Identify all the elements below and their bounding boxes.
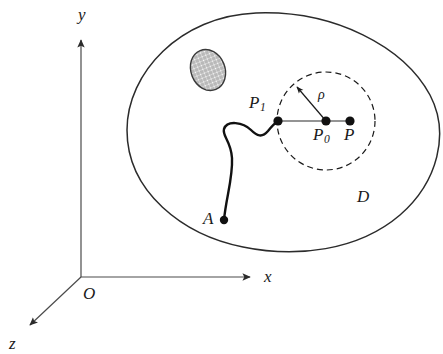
point-p0-label-sub: 0 bbox=[324, 133, 330, 146]
x-axis-label: x bbox=[264, 268, 272, 285]
radius-label: ρ bbox=[318, 88, 325, 102]
point-p1-label: P1 bbox=[249, 94, 266, 114]
domain-boundary bbox=[127, 13, 440, 252]
z-axis-label: z bbox=[9, 335, 16, 352]
domain-label: D bbox=[357, 188, 369, 205]
point-p1-dot bbox=[273, 116, 282, 125]
point-p0-label-base: P bbox=[313, 125, 323, 144]
z-axis bbox=[30, 277, 81, 325]
point-p1-label-base: P bbox=[249, 93, 259, 112]
point-a-label: A bbox=[203, 210, 213, 227]
point-a-dot bbox=[220, 216, 228, 224]
hatched-region bbox=[184, 44, 231, 96]
figure-svg bbox=[0, 0, 443, 354]
point-p-label: P bbox=[344, 126, 354, 143]
point-p1-label-sub: 1 bbox=[260, 101, 266, 114]
figure-canvas: y x z O D A P1 P0 P ρ bbox=[0, 0, 443, 354]
point-p0-label: P0 bbox=[313, 126, 330, 146]
origin-label: O bbox=[83, 285, 95, 302]
y-axis-label: y bbox=[78, 6, 86, 23]
path-a-to-p1 bbox=[224, 121, 278, 220]
